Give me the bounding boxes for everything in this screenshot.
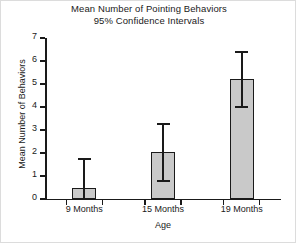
y-axis-tick-label: 7 xyxy=(32,30,37,43)
y-axis-tick: 7 xyxy=(40,37,45,39)
error-bar-line xyxy=(162,124,164,180)
x-axis-tick-label: 19 Months xyxy=(221,204,263,214)
chart-title-block: Mean Number of Pointing Behaviors 95% Co… xyxy=(1,3,296,27)
error-bar xyxy=(151,38,175,199)
y-axis-tick: 2 xyxy=(40,152,45,154)
y-axis-tick-label: 1 xyxy=(32,168,37,181)
error-bar-line xyxy=(241,52,243,107)
y-axis-tick: 0 xyxy=(40,198,45,200)
y-axis-tick-label: 2 xyxy=(32,145,37,158)
y-axis-tick: 4 xyxy=(40,106,45,108)
y-axis-tick-label: 4 xyxy=(32,99,37,112)
chart-figure: Mean Number of Pointing Behaviors 95% Co… xyxy=(0,0,296,243)
error-bar-cap-lower xyxy=(235,106,248,108)
chart-title: Mean Number of Pointing Behaviors xyxy=(1,3,296,15)
error-bar-cap-upper xyxy=(78,158,91,160)
y-axis-tick: 6 xyxy=(40,60,45,62)
y-axis-tick: 1 xyxy=(40,175,45,177)
error-bar xyxy=(230,38,254,199)
chart-subtitle: 95% Confidence Intervals xyxy=(1,15,296,27)
x-axis-tick-label: 9 Months xyxy=(66,204,103,214)
error-bar-line xyxy=(83,159,85,199)
y-axis-label: Mean Number of Behaviors xyxy=(17,44,27,184)
plot-area: 01234567 xyxy=(45,38,281,199)
y-axis-tick-label: 6 xyxy=(32,53,37,66)
error-bar-cap-upper xyxy=(235,51,248,53)
error-bar xyxy=(72,38,96,199)
y-axis-tick-label: 5 xyxy=(32,76,37,89)
error-bar-cap-lower xyxy=(157,180,170,182)
x-axis-label: Age xyxy=(45,220,281,230)
y-axis-line xyxy=(45,38,47,199)
error-bar-cap-upper xyxy=(157,123,170,125)
y-axis-tick-label: 3 xyxy=(32,122,37,135)
y-axis-tick-label: 0 xyxy=(32,191,37,204)
y-axis-tick: 5 xyxy=(40,83,45,85)
x-axis-tick-label: 15 Months xyxy=(142,204,184,214)
y-axis-tick: 3 xyxy=(40,129,45,131)
